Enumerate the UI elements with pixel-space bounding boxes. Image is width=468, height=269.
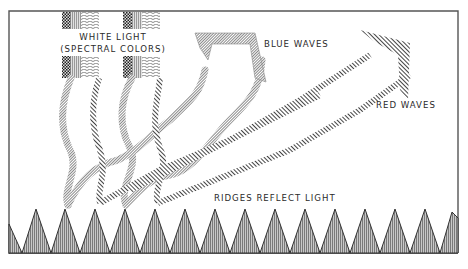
white-light-source-left-bottom	[62, 56, 99, 78]
red-wave-path-2	[155, 78, 163, 203]
white-light-label: WHITE LIGHT	[79, 32, 147, 42]
white-light-source-right-top	[123, 12, 160, 29]
grating-ridges	[9, 209, 458, 253]
diagram-canvas: WHITE LIGHT (SPECTRAL COLORS) BLUE WAVES…	[0, 0, 468, 269]
ridges-reflect-light-label: RIDGES REFLECT LIGHT	[214, 193, 336, 203]
blue-waves-label: BLUE WAVES	[264, 39, 329, 49]
white-light-source-right-bottom	[123, 56, 160, 78]
spectral-colors-label: (SPECTRAL COLORS)	[60, 44, 165, 54]
red-wave-path-1	[93, 78, 103, 203]
red-waves-label: RED WAVES	[376, 100, 436, 110]
white-light-source-left-top	[62, 12, 99, 29]
diffraction-diagram: WHITE LIGHT (SPECTRAL COLORS) BLUE WAVES…	[0, 0, 468, 269]
blue-wave-path-1	[63, 78, 74, 205]
